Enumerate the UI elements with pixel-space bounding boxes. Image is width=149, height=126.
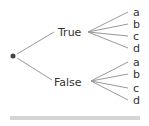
leaf-line	[91, 62, 128, 81]
leaf-line	[88, 24, 128, 32]
leaf-label: d	[133, 94, 140, 107]
branch-line	[17, 58, 52, 80]
branch-label: False	[54, 76, 82, 89]
branch-line	[17, 32, 54, 54]
root-node-dot	[11, 54, 16, 59]
leaf-line	[91, 81, 128, 100]
probability-tree-diagram: TrueabcdFalseabcd	[0, 0, 149, 126]
branch-label: True	[57, 26, 82, 39]
leaf-label: d	[133, 42, 140, 55]
leaf-line	[91, 81, 128, 88]
leaf-label: b	[133, 68, 140, 81]
leaf-line	[88, 12, 128, 32]
leaf-line	[91, 74, 128, 81]
